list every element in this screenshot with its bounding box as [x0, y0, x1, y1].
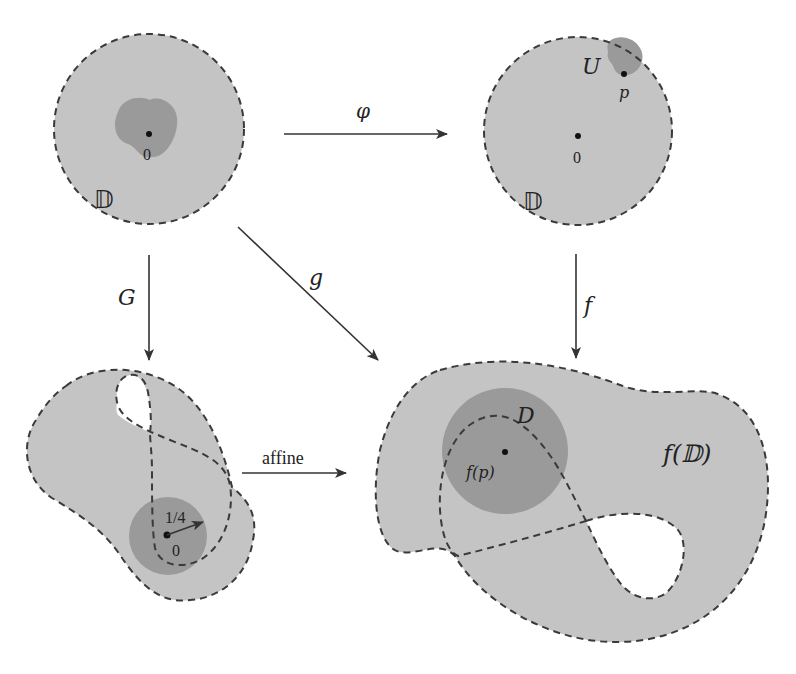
- radius-label: 1/4: [165, 509, 185, 526]
- origin-point: [146, 131, 152, 137]
- point-label-f-of-p: f(p): [465, 463, 495, 482]
- disk-label: 𝔻: [523, 188, 543, 216]
- disk-label-d: D: [516, 403, 535, 428]
- origin-label: 0: [573, 149, 581, 166]
- point-p: [621, 71, 627, 77]
- arrow-f-label: f: [582, 293, 596, 318]
- top-right-disk-node: U p 0 𝔻: [484, 37, 672, 225]
- point-f-of-p: [502, 449, 508, 455]
- arrow-affine-label: affine: [262, 448, 304, 468]
- origin-label: 0: [172, 542, 180, 559]
- top-left-disk-node: 0 𝔻: [54, 34, 244, 224]
- arrow-f: f: [576, 254, 596, 358]
- bottom-left-domain-node: 1/4 0: [27, 370, 254, 601]
- image-label-f-of-d: f(𝔻): [661, 440, 711, 468]
- arrow-g-label: g: [309, 265, 323, 290]
- bottom-right-image-node: D f(p) f(𝔻): [376, 362, 768, 642]
- arrow-phi: φ: [284, 99, 447, 134]
- arrow-g-line: [238, 227, 378, 360]
- arrow-affine: affine: [242, 448, 346, 473]
- arrow-g-capital-label: G: [118, 285, 136, 310]
- disk-label: 𝔻: [94, 186, 114, 214]
- arrow-phi-label: φ: [356, 99, 370, 123]
- origin-label: 0: [143, 146, 151, 163]
- arrow-g: g: [238, 227, 378, 360]
- origin-point: [575, 133, 581, 139]
- image-region: [376, 362, 768, 642]
- domain-region: [27, 370, 254, 601]
- commutative-diagram: 0 𝔻 U p 0 𝔻 1/4 0 D f(p) f(𝔻): [0, 0, 796, 674]
- neighborhood-label-u: U: [582, 54, 602, 79]
- arrow-g-capital: G: [118, 255, 149, 360]
- point-label-p: p: [619, 83, 629, 102]
